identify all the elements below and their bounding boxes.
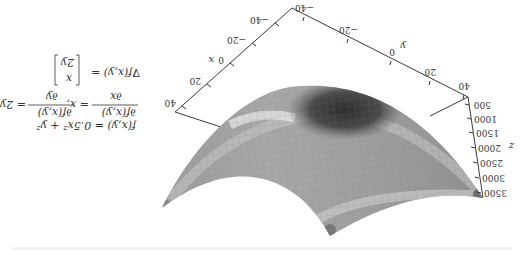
- equations: f(x,y) = 0.5x² + y² ∂f(x,y) ∂x = x, ∂f(x…: [0, 55, 140, 132]
- x-tick: −40: [250, 15, 279, 26]
- x-tick: 0: [218, 55, 234, 66]
- svg-text:2000: 2000: [478, 143, 501, 153]
- svg-text:= 2y: = 2y: [0, 98, 26, 111]
- z-axis-label: z: [508, 141, 515, 152]
- svg-text:1000: 1000: [474, 114, 497, 124]
- surface-plot-figure: 40 20 0 −20 −40 x −40 −20 0 20 40 y 500 …: [0, 0, 522, 255]
- x-tick: 40: [164, 98, 186, 109]
- svg-text:−40: −40: [250, 15, 269, 25]
- svg-text:3500: 3500: [484, 188, 507, 198]
- svg-text:20: 20: [189, 76, 201, 86]
- gradient: ∇f(x,y) = x 2y: [55, 55, 140, 85]
- svg-text:∂x: ∂x: [109, 90, 122, 103]
- svg-text:∂y: ∂y: [45, 90, 58, 103]
- svg-text:2500: 2500: [480, 158, 503, 168]
- svg-text:1500: 1500: [476, 128, 499, 138]
- svg-text:0: 0: [218, 55, 224, 65]
- svg-text:40: 40: [164, 98, 176, 108]
- svg-text:500: 500: [474, 100, 491, 110]
- y-tick: 40: [458, 81, 470, 99]
- svg-text:∂f(x,y): ∂f(x,y): [102, 106, 136, 119]
- x-axis: 40 20 0 −20 −40 x: [164, 15, 279, 109]
- partial-y: ∂f(x,y) ∂y = 2y: [0, 90, 74, 119]
- svg-text:−40: −40: [295, 3, 314, 13]
- y-axis-label: y: [400, 41, 407, 52]
- x-axis-label: x: [208, 55, 214, 66]
- svg-text:3000: 3000: [482, 173, 505, 183]
- svg-text:−20: −20: [339, 25, 358, 35]
- svg-text:x: x: [65, 72, 72, 85]
- svg-text:0: 0: [389, 47, 395, 57]
- svg-text:20: 20: [424, 67, 436, 77]
- y-tick: −40: [295, 3, 314, 21]
- partial-x: ∂f(x,y) ∂x = x,: [67, 90, 138, 119]
- function-definition: f(x,y) = 0.5x² + y²: [36, 119, 137, 132]
- svg-text:∇f(x,y) =: ∇f(x,y) =: [91, 66, 140, 79]
- svg-text:2y: 2y: [60, 56, 75, 69]
- svg-text:−20: −20: [227, 35, 246, 45]
- x-tick: 20: [189, 76, 211, 87]
- surface-mesh: [150, 80, 490, 240]
- svg-text:∂f(x,y): ∂f(x,y): [38, 106, 72, 119]
- svg-text:40: 40: [458, 81, 470, 91]
- caption-remnant: [12, 247, 512, 250]
- y-tick: 20: [424, 67, 436, 85]
- y-tick: 0: [389, 47, 395, 65]
